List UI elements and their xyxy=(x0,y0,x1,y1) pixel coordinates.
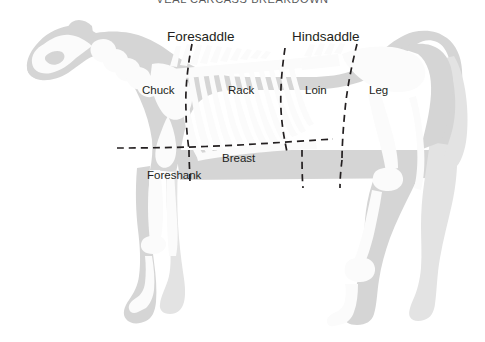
label-foreshank: Foreshank xyxy=(147,169,201,181)
stifle-joint xyxy=(373,167,404,191)
label-rack: Rack xyxy=(228,84,254,96)
label-loin: Loin xyxy=(305,84,327,96)
front-knee-joint xyxy=(141,235,166,254)
label-foresaddle: Foresaddle xyxy=(167,29,235,44)
label-chuck: Chuck xyxy=(142,84,175,96)
lumbar-vertebrae xyxy=(300,43,345,70)
hock-joint xyxy=(345,257,376,282)
label-breast: Breast xyxy=(222,152,255,164)
label-leg: Leg xyxy=(369,84,388,96)
veal-carcass-breakdown-diagram: VEAL CARCASS BREAKDOWN xyxy=(0,0,485,342)
label-hindsaddle: Hindsaddle xyxy=(292,29,360,44)
carcass-illustration xyxy=(0,0,485,342)
